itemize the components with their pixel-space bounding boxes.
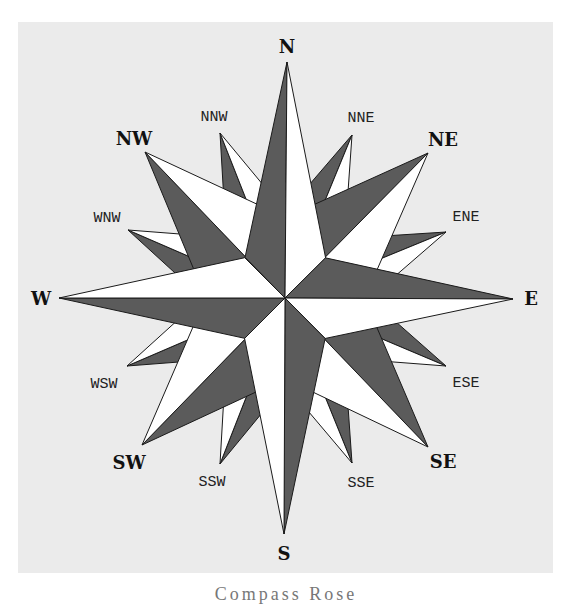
label-e: E [524, 288, 538, 309]
label-wnw: WNW [93, 210, 120, 227]
label-ene: ENE [452, 209, 479, 226]
label-nnw: NNW [200, 109, 227, 126]
label-s: S [278, 543, 291, 564]
label-n: N [279, 36, 295, 57]
label-wsw: WSW [90, 376, 117, 393]
label-se: SE [430, 451, 457, 472]
label-nne: NNE [347, 110, 374, 127]
label-ese: ESE [452, 375, 479, 392]
label-sse: SSE [347, 475, 374, 492]
label-ssw: SSW [198, 474, 225, 491]
label-w: W [30, 288, 52, 309]
label-nw: NW [116, 128, 153, 149]
label-sw: SW [112, 452, 146, 473]
label-ne: NE [428, 129, 458, 150]
figure-caption: Compass Rose [0, 584, 572, 605]
